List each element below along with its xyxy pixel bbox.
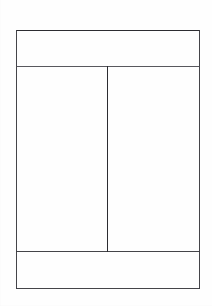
frame-bottom-edge xyxy=(16,288,200,289)
column-divider-rule xyxy=(107,66,108,252)
left-column-area xyxy=(17,67,107,251)
header-band xyxy=(17,31,199,66)
right-column-area xyxy=(108,67,199,251)
layout-diagram-canvas xyxy=(0,0,212,306)
footer-band xyxy=(17,252,199,288)
frame-top-edge xyxy=(16,30,200,31)
